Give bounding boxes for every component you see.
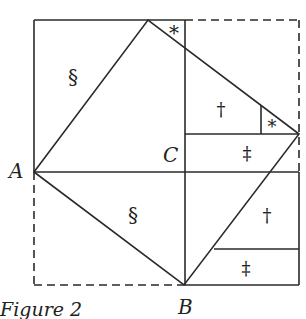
mark-asterisk-top: * — [169, 21, 179, 45]
mark-section-bottom: § — [128, 203, 138, 227]
point-label-b: B — [177, 295, 193, 319]
mark-ddagger-bottom: ‡ — [242, 258, 251, 279]
mark-dagger-top: † — [217, 99, 226, 120]
mark-ddagger-mid: ‡ — [243, 143, 252, 164]
figure-diagram: § * † * ‡ § † ‡ A C B Figure 2 — [0, 0, 306, 319]
mark-section-top: § — [68, 65, 78, 89]
point-label-c: C — [163, 143, 178, 167]
mark-dagger-bottom: † — [263, 205, 272, 226]
figure-caption: Figure 2 — [0, 298, 82, 319]
point-label-a: A — [7, 159, 23, 183]
mark-asterisk-right: * — [268, 116, 277, 137]
